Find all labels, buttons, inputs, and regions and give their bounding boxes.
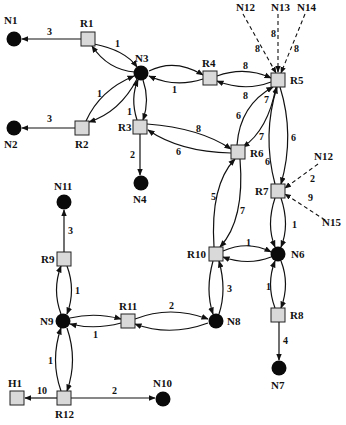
edge-r6-r10 — [220, 159, 241, 247]
weight-r1-n3: 1 — [115, 38, 120, 49]
label-n3: N3 — [135, 52, 149, 64]
weight-r11-n8: 2 — [169, 300, 174, 311]
edge-n14-r5 — [281, 14, 305, 73]
weight-r2-n2: 3 — [47, 113, 52, 124]
router-node-r12[interactable] — [57, 391, 71, 405]
label-r3: R3 — [118, 121, 132, 133]
label-n12-top: N12 — [236, 1, 255, 13]
weight-r3-r6: 8 — [196, 123, 201, 134]
network-node-n7[interactable] — [272, 361, 287, 376]
weight-r12-h1: 10 — [37, 385, 47, 396]
router-node-r4[interactable] — [203, 71, 217, 85]
router-node-r11[interactable] — [121, 314, 135, 328]
label-n7: N7 — [271, 379, 285, 391]
weight-r5-r7: 6 — [291, 132, 296, 143]
edge-r5-r4 — [217, 81, 271, 87]
weight-r9-n11: 3 — [68, 225, 73, 236]
label-n11: N11 — [54, 180, 72, 192]
label-r1: R1 — [80, 17, 93, 29]
weight-r9-n9: 1 — [75, 285, 80, 296]
edge-r7-n6 — [281, 198, 286, 247]
label-r5: R5 — [290, 74, 304, 86]
router-node-r7[interactable] — [271, 184, 285, 198]
weight-n12-r7: 2 — [310, 173, 315, 184]
edge-r5-r7 — [280, 87, 288, 184]
edge-n9-r12 — [67, 328, 73, 391]
edge-n8-r10 — [219, 261, 223, 314]
network-node-n8[interactable] — [209, 314, 224, 329]
edge-n6-r10 — [223, 257, 271, 262]
edge-n3-r3 — [143, 80, 147, 120]
weight-r5-r4: 8 — [243, 90, 248, 101]
network-node-n2[interactable] — [7, 121, 22, 136]
edge-r8-n6 — [271, 261, 276, 308]
weight-n13-r5: 8 — [271, 28, 276, 39]
network-node-n11[interactable] — [57, 195, 72, 210]
edge-n15-r7 — [285, 194, 325, 220]
edge-r4-n3 — [149, 76, 203, 83]
weight-r8-n7: 4 — [283, 335, 288, 346]
edge-r4-r5 — [217, 71, 271, 78]
label-n10: N10 — [153, 377, 172, 389]
network-node-n9[interactable] — [56, 314, 71, 329]
weight-r6-r10: 7 — [240, 205, 245, 216]
edge-r10-r6 — [213, 159, 235, 247]
network-node-n4[interactable] — [134, 176, 149, 191]
label-n6: N6 — [291, 248, 305, 260]
weight-r4-r5: 8 — [243, 60, 248, 71]
nodes — [7, 32, 287, 407]
label-r2: R2 — [75, 138, 89, 150]
edge-n8-r11 — [135, 323, 208, 330]
network-node-n1[interactable] — [7, 32, 22, 47]
weight-r6-r3: 6 — [176, 146, 181, 157]
router-node-r6[interactable] — [231, 145, 245, 159]
weight-n15-r7: 9 — [308, 192, 313, 203]
router-node-r9[interactable] — [57, 252, 71, 266]
weight-n14-r5: 8 — [294, 43, 299, 54]
label-r6: R6 — [250, 147, 264, 159]
weight-r12-n10: 2 — [112, 385, 117, 396]
router-node-r10[interactable] — [209, 247, 223, 261]
label-r4: R4 — [202, 57, 216, 69]
weight-r8-n6: 1 — [266, 281, 271, 292]
network-node-n3[interactable] — [134, 66, 149, 81]
edge-r12-n9 — [56, 328, 62, 391]
router-node-r5[interactable] — [271, 73, 285, 87]
edge-r3-n3 — [134, 80, 138, 120]
edge-n6-r7 — [271, 198, 276, 247]
router-node-r1[interactable] — [81, 32, 95, 46]
weight-r7-n6: 1 — [292, 219, 297, 230]
weight-r11-n9: 1 — [93, 329, 98, 340]
router-node-r3[interactable] — [133, 120, 147, 134]
weight-r5-r6: 7 — [259, 131, 264, 142]
network-node-n10[interactable] — [156, 392, 171, 407]
node-labels: N1 N2 N3 N4 N6 N7 N8 N9 N10 N11 R1 R2 R3… — [4, 1, 341, 420]
weight-r1-n1: 3 — [47, 26, 52, 37]
router-node-r2[interactable] — [75, 121, 89, 135]
router-node-r8[interactable] — [271, 308, 285, 322]
label-n13: N13 — [271, 1, 290, 13]
label-n14: N14 — [297, 1, 316, 13]
edge-n3-r4 — [149, 65, 203, 75]
weight-r3-n3: 1 — [127, 106, 132, 117]
label-r12: R12 — [55, 408, 74, 420]
label-n4: N4 — [133, 193, 147, 205]
edge-n6-r8 — [281, 261, 286, 308]
network-diagram: N1 N2 N3 N4 N6 N7 N8 N9 N10 N11 R1 R2 R3… — [0, 0, 346, 425]
weight-r6-r5: 6 — [236, 110, 241, 121]
label-r11: R11 — [119, 300, 137, 312]
edge-r10-n8 — [209, 261, 213, 314]
weight-n12-r5: 8 — [255, 43, 260, 54]
edge-r11-n9 — [70, 323, 121, 327]
weight-r12-n9: 1 — [48, 355, 53, 366]
label-n9: N9 — [40, 315, 54, 327]
network-node-n6[interactable] — [271, 247, 286, 262]
edge-r7-r5 — [269, 87, 277, 184]
label-r7: R7 — [255, 185, 269, 197]
edge-n9-r9 — [57, 266, 62, 314]
edge-n9-r11 — [70, 315, 121, 319]
host-node-h1[interactable] — [10, 391, 24, 405]
label-r9: R9 — [41, 253, 55, 265]
weight-r7-r5: 6 — [265, 156, 270, 167]
weight-r3-n4: 2 — [130, 149, 135, 160]
